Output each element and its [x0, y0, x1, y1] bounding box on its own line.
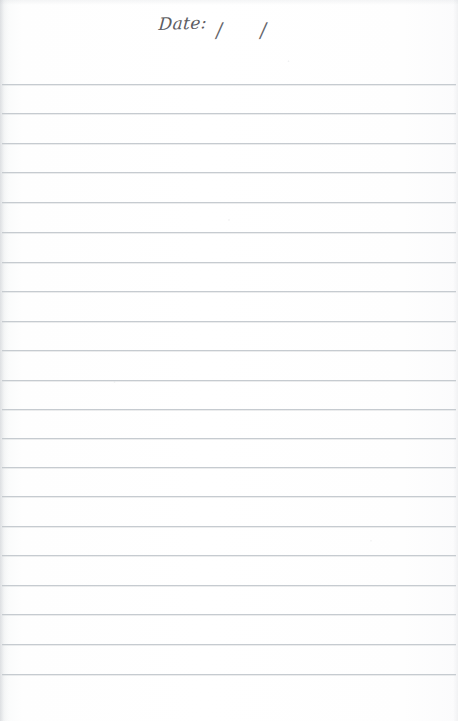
date-separator-first: /: [215, 18, 223, 42]
rule-line: [2, 321, 456, 322]
rule-line: [2, 644, 456, 645]
rule-line: [2, 262, 456, 263]
rule-line: [2, 291, 456, 292]
rule-line: [2, 674, 456, 675]
rule-line: [2, 143, 456, 144]
ruled-lines: [0, 0, 458, 721]
date-header: Date: / /: [158, 14, 338, 48]
rule-line: [2, 380, 456, 381]
rule-line: [2, 409, 456, 410]
rule-line: [2, 585, 456, 586]
rule-line: [2, 438, 456, 439]
notebook-page: Date: / /: [0, 0, 458, 721]
rule-line: [2, 614, 456, 615]
rule-line: [2, 202, 456, 203]
rule-line: [2, 526, 456, 527]
rule-line: [2, 467, 456, 468]
rule-line: [2, 555, 456, 556]
rule-line: [2, 172, 456, 173]
date-separator-second: /: [259, 18, 267, 42]
rule-line: [2, 496, 456, 497]
rule-line: [2, 350, 456, 351]
rule-line: [2, 232, 456, 233]
rule-line: [2, 113, 456, 114]
date-label: Date:: [158, 12, 208, 34]
rule-line: [2, 84, 456, 85]
